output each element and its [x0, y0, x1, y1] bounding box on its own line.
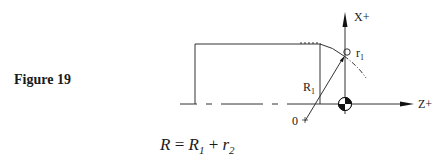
arc-center-label: 0 [292, 114, 298, 128]
radius-formula: R = R1 + r2 [160, 135, 235, 156]
datum-origin-icon [339, 98, 352, 111]
arc-radius-label: R1 [303, 80, 315, 96]
formula-term2-sub: 2 [229, 144, 235, 156]
part-outline [195, 43, 366, 104]
x-axis-label: X+ [354, 10, 370, 24]
formula-plus: + [204, 135, 222, 154]
tool-nose-radius-label: r1 [356, 46, 364, 62]
z-axis [345, 102, 414, 107]
z-axis-label: Z+ [418, 97, 432, 111]
x-axis-arrow-icon [343, 12, 348, 27]
formula-term1: R [188, 135, 198, 154]
formula-equals: = [170, 135, 188, 154]
formula-lhs: R [160, 135, 170, 154]
z-axis-arrow-icon [400, 102, 414, 107]
